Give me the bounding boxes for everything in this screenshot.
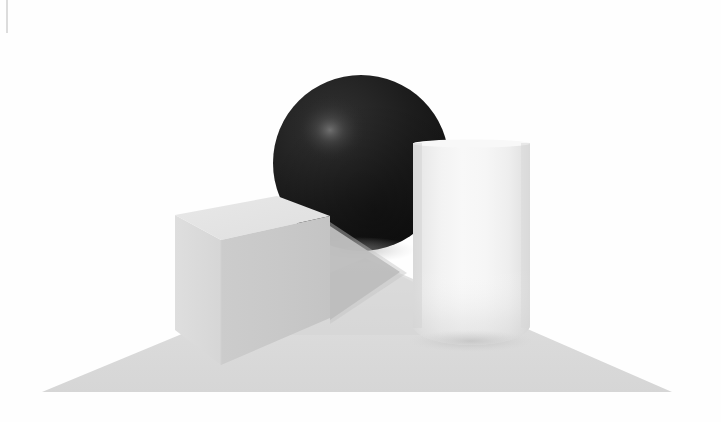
sphere-specular-highlight xyxy=(290,94,370,166)
cylinder-right-edge-shade xyxy=(521,143,530,328)
cylinder-left-edge-shade xyxy=(413,143,422,328)
cylinder-contact-shadow xyxy=(409,330,533,352)
scene-root: Rendered 3D Primitives Scene A raytraced… xyxy=(0,0,721,422)
white-cylinder xyxy=(413,140,530,346)
scene-canvas xyxy=(0,0,721,422)
cylinder-vertical-shade xyxy=(413,143,530,345)
cylinder-top-cap xyxy=(413,140,530,148)
